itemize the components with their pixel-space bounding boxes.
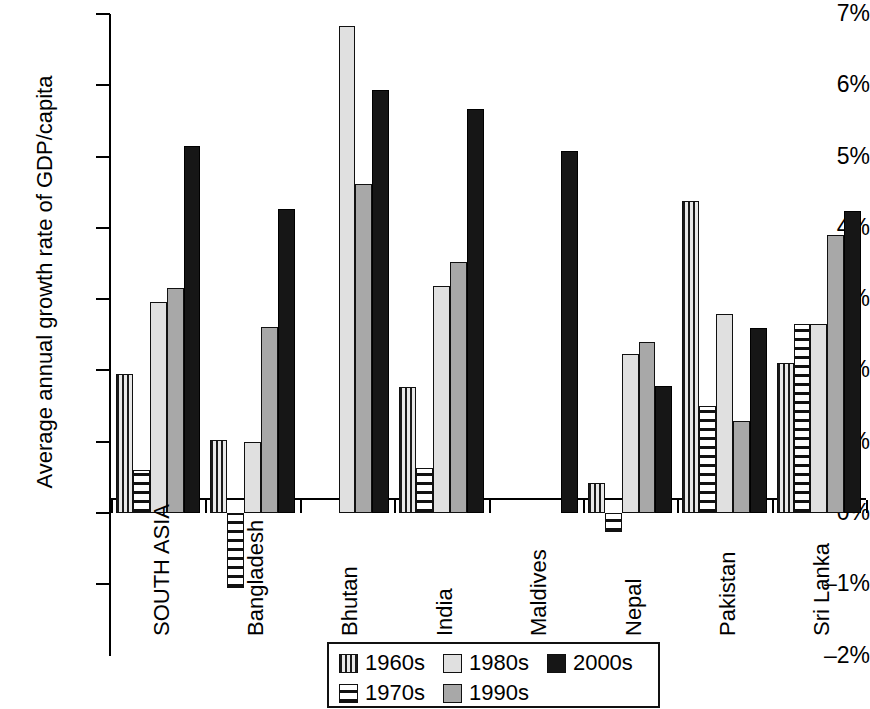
y-axis-title: Average annual growth rate of GDP/capita: [25, 32, 65, 532]
legend-swatch-icon: [443, 684, 462, 703]
bar: [184, 146, 201, 513]
bar: [682, 201, 699, 513]
legend-swatch-icon: [547, 654, 566, 673]
bar: [227, 513, 244, 588]
x-category-label: Bhutan: [339, 566, 361, 636]
bar: [133, 470, 150, 513]
bar-group: [583, 14, 677, 656]
x-category-label: Nepal: [623, 579, 645, 636]
legend-item[interactable]: 1980s: [443, 652, 529, 674]
legend-row: 1960s1980s2000s: [339, 648, 658, 678]
bar: [699, 406, 716, 513]
bar: [810, 324, 827, 513]
bar-group: [394, 14, 488, 656]
bar: [150, 302, 167, 513]
legend-swatch-icon: [339, 654, 358, 673]
bar: [339, 26, 356, 513]
x-category-label: Bangladesh: [245, 520, 267, 636]
plot-area: [110, 14, 866, 656]
legend-label: 1960s: [365, 652, 425, 674]
bar: [561, 151, 578, 513]
legend-row: 1970s1990s: [339, 678, 658, 708]
bar-group: [300, 14, 394, 656]
y-tick-mark: [96, 512, 110, 514]
bar: [355, 184, 372, 513]
bar: [588, 483, 605, 513]
x-category-label: Pakistan: [717, 552, 739, 636]
bar: [750, 328, 767, 513]
y-tick-mark: [96, 441, 110, 443]
bar: [433, 286, 450, 513]
legend-item[interactable]: 2000s: [547, 652, 633, 674]
bar: [794, 324, 811, 513]
bar: [639, 342, 656, 513]
legend-item[interactable]: 1970s: [339, 682, 425, 704]
legend-swatch-icon: [443, 654, 462, 673]
bar: [116, 374, 133, 513]
bar: [210, 440, 227, 513]
y-tick-mark: [96, 583, 110, 585]
legend-label: 2000s: [573, 652, 633, 674]
x-category-label: India: [434, 588, 456, 636]
bar: [467, 109, 484, 513]
bar: [827, 235, 844, 513]
bar: [244, 442, 261, 513]
bar: [416, 468, 433, 513]
x-tick-mark: [866, 500, 868, 513]
bar: [399, 387, 416, 513]
legend-label: 1970s: [365, 682, 425, 704]
legend-item[interactable]: 1960s: [339, 652, 425, 674]
x-category-label: Sri Lanka: [811, 543, 833, 636]
bar: [372, 90, 389, 513]
bar: [733, 421, 750, 513]
bar: [450, 262, 467, 513]
legend-item[interactable]: 1990s: [443, 682, 529, 704]
bar: [655, 386, 672, 513]
y-tick-mark: [96, 227, 110, 229]
y-tick-mark: [96, 369, 110, 371]
legend-label: 1990s: [469, 682, 529, 704]
bar: [777, 363, 794, 513]
bar: [716, 314, 733, 513]
bar: [278, 209, 295, 513]
legend-label: 1980s: [469, 652, 529, 674]
legend-swatch-icon: [339, 684, 358, 703]
legend: 1960s1980s2000s1970s1990s: [327, 642, 660, 708]
y-tick-mark: [96, 298, 110, 300]
bar: [622, 354, 639, 513]
bar-chart: Average annual growth rate of GDP/capita…: [0, 0, 870, 709]
x-category-label: SOUTH ASIA: [151, 504, 173, 636]
x-category-label: Maldives: [528, 549, 550, 636]
y-tick-mark: [96, 84, 110, 86]
y-tick-mark: [96, 156, 110, 158]
bar: [167, 288, 184, 513]
bar: [605, 513, 622, 532]
bar: [844, 211, 861, 513]
bar: [261, 327, 278, 513]
y-tick-mark: [96, 13, 110, 15]
